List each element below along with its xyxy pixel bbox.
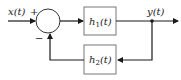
input-label: x(t) [8,6,26,17]
block-diagram: x(t) + − h1(t) y(t) h2(t) [0,0,181,80]
output-label: y(t) [146,6,165,17]
feedback-line-to-h2 [118,21,152,60]
feedback-line-to-junction [50,34,84,60]
summing-junction [36,9,60,33]
minus-sign: − [35,33,43,44]
